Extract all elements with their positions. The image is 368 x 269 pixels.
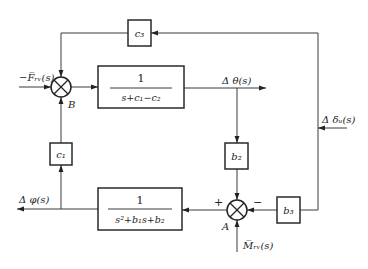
- theta-label: Δ θ(s): [221, 75, 251, 86]
- A-minus-sign: −: [253, 196, 262, 209]
- input-F-label: −F̅ᵣᵥ(s): [19, 72, 55, 83]
- b2-label: b₂: [231, 151, 241, 162]
- block-b3: b₃: [277, 197, 300, 223]
- c3-label: c₃: [135, 28, 145, 39]
- junction-B-label: B: [67, 99, 75, 110]
- c1-label: c₁: [56, 149, 66, 160]
- junction-A-label: A: [221, 221, 229, 232]
- block-b2: b₂: [225, 143, 248, 169]
- G1-numerator: 1: [138, 72, 145, 85]
- M-label: M̅ᵣᵥ(s): [242, 240, 273, 251]
- G2-numerator: 1: [137, 194, 144, 207]
- G2-denominator: s²+b₁s+b₂: [115, 214, 164, 225]
- block-diagram: c₃ 1 s+c₁−c₂ c₁ b₂ b₃ 1 s²+b₁s+b₂ B: [0, 0, 368, 269]
- block-G1: 1 s+c₁−c₂: [98, 66, 184, 108]
- block-c3: c₃: [128, 20, 151, 46]
- b3-label: b₃: [283, 205, 293, 216]
- block-c1: c₁: [50, 143, 72, 165]
- delta-label: Δ δᵤ(s): [321, 114, 355, 125]
- block-G2: 1 s²+b₁s+b₂: [98, 188, 182, 230]
- G1-denominator: s+c₁−c₂: [121, 92, 160, 103]
- summing-junction-A: [227, 200, 247, 220]
- A-plus-sign: +: [214, 196, 223, 209]
- feedback-top-line: [151, 33, 318, 210]
- phi-label: Δ φ(s): [18, 194, 49, 205]
